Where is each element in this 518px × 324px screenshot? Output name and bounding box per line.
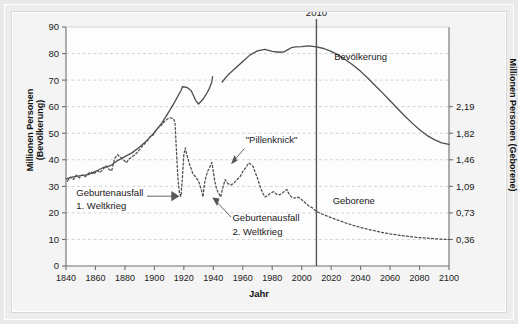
callout-label-wk2-line1: Geburtenausfall xyxy=(232,212,299,223)
y-tick-label-left: 0 xyxy=(54,260,59,271)
x-axis-title: Jahr xyxy=(0,288,518,299)
y-tick-label-left: 10 xyxy=(48,234,59,245)
chart-plot-area: 01020304050607080900,360,731,091,461,822… xyxy=(12,12,508,314)
y-tick-label-right: 1,82 xyxy=(456,128,475,139)
y-tick-label-left: 20 xyxy=(48,207,59,218)
y-tick-label-right: 1,09 xyxy=(456,181,475,192)
x-tick-label: 2100 xyxy=(439,273,459,283)
x-tick-label: 1960 xyxy=(233,273,253,283)
x-tick-label: 2000 xyxy=(292,273,312,283)
vertical-marker-label: 2010 xyxy=(306,12,327,18)
y-axis-right-title: Millionen Personen (Geborene) xyxy=(508,50,518,200)
x-tick-label: 2040 xyxy=(351,273,371,283)
callout-label-wk1-line2: 1. Weltkrieg xyxy=(76,200,126,211)
y-tick-label-left: 40 xyxy=(48,154,59,165)
y-tick-label-right: 2,19 xyxy=(456,101,475,112)
series-label-geborene: Geborene xyxy=(333,195,375,206)
y-tick-label-left: 70 xyxy=(48,75,59,86)
callout-label-pillenknick: "Pillenknick" xyxy=(246,134,298,145)
y-tick-label-left: 90 xyxy=(48,21,59,32)
y-tick-label-right: 0,36 xyxy=(456,234,475,245)
x-tick-label: 1860 xyxy=(85,273,105,283)
callout-label-wk1-line1: Geburtenausfall xyxy=(76,187,143,198)
x-tick-label: 1840 xyxy=(56,273,76,283)
chart-card: 01020304050607080900,360,731,091,461,822… xyxy=(11,11,507,313)
x-tick-label: 1900 xyxy=(144,273,164,283)
series-label-bevoelkerung: Bevölkerung xyxy=(334,51,387,62)
y-axis-left-title: Millionen Personen (Bevölkerung) xyxy=(25,60,45,200)
x-tick-label: 2020 xyxy=(321,273,341,283)
x-tick-label: 1940 xyxy=(203,273,223,283)
x-tick-label: 1880 xyxy=(115,273,135,283)
y-tick-label-right: 1,46 xyxy=(456,154,475,165)
y-tick-label-left: 50 xyxy=(48,128,59,139)
y-tick-label-left: 30 xyxy=(48,181,59,192)
y-tick-label-left: 60 xyxy=(48,101,59,112)
figure-root: 01020304050607080900,360,731,091,461,822… xyxy=(0,0,518,324)
y-tick-label-right: 0,73 xyxy=(456,207,475,218)
y-tick-label-left: 80 xyxy=(48,48,59,59)
x-tick-label: 1980 xyxy=(262,273,282,283)
x-tick-label: 2080 xyxy=(410,273,430,283)
callout-label-wk2-line2: 2. Weltkrieg xyxy=(232,226,282,237)
x-tick-label: 1920 xyxy=(174,273,194,283)
x-tick-label: 2060 xyxy=(380,273,400,283)
